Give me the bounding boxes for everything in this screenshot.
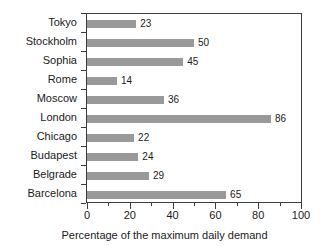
bar (87, 134, 134, 142)
bar-row: 36 (87, 90, 301, 109)
bar (87, 172, 149, 180)
bar-value-label: 45 (187, 57, 198, 67)
y-axis-label-stockholm: Stockholm (0, 36, 77, 47)
bar-value-label: 86 (275, 114, 286, 124)
y-axis-label-belgrade: Belgrade (0, 169, 77, 180)
bar (87, 39, 194, 47)
bar (87, 58, 183, 66)
x-axis-tick-label: 80 (252, 210, 264, 221)
y-axis-label-chicago: Chicago (0, 131, 77, 142)
x-axis-minor-tick (280, 203, 281, 206)
bar-value-label: 50 (198, 38, 209, 48)
x-axis-minor-tick (194, 203, 195, 206)
x-axis-tick-labels: 020406080100 (86, 210, 302, 223)
bar-row: 50 (87, 33, 301, 52)
x-axis-minor-tick (108, 203, 109, 206)
x-axis-tick-label: 0 (84, 210, 90, 221)
bar (87, 153, 138, 161)
x-axis-tick-label: 40 (166, 210, 178, 221)
x-axis-ticks (86, 203, 302, 209)
x-axis-tick-label: 20 (124, 210, 136, 221)
x-axis-tick-label: 100 (292, 210, 310, 221)
bar-value-label: 23 (140, 19, 151, 29)
bar-row: 65 (87, 185, 301, 204)
bar-row: 24 (87, 147, 301, 166)
bar-chart: TokyoStockholmSophiaRomeMoscowLondonChic… (0, 0, 329, 246)
x-axis-minor-tick (237, 203, 238, 206)
y-axis-label-london: London (0, 112, 77, 123)
x-axis-tick-label: 60 (209, 210, 221, 221)
bar-value-label: 29 (153, 171, 164, 181)
bar-row: 23 (87, 14, 301, 33)
y-axis-label-barcelona: Barcelona (0, 188, 77, 199)
x-axis-title: Percentage of the maximum daily demand (0, 229, 329, 241)
y-axis-label-rome: Rome (0, 74, 77, 85)
bar-row: 14 (87, 71, 301, 90)
y-axis-category-labels: TokyoStockholmSophiaRomeMoscowLondonChic… (0, 13, 86, 203)
bar (87, 20, 136, 28)
x-axis-minor-tick (151, 203, 152, 206)
bar-value-label: 22 (138, 133, 149, 143)
bar (87, 115, 271, 123)
y-axis-label-sophia: Sophia (0, 55, 77, 66)
bar (87, 96, 164, 104)
plot-area: 23504514368622242965 (86, 13, 302, 203)
bar-row: 22 (87, 128, 301, 147)
bar-value-label: 36 (168, 95, 179, 105)
y-axis-label-tokyo: Tokyo (0, 17, 77, 28)
bar (87, 77, 117, 85)
bar (87, 191, 226, 199)
y-axis-label-budapest: Budapest (0, 150, 77, 161)
bar-row: 45 (87, 52, 301, 71)
y-axis-label-moscow: Moscow (0, 93, 77, 104)
bar-row: 29 (87, 166, 301, 185)
bar-value-label: 14 (121, 76, 132, 86)
bar-value-label: 65 (230, 190, 241, 200)
bar-row: 86 (87, 109, 301, 128)
bar-value-label: 24 (142, 152, 153, 162)
